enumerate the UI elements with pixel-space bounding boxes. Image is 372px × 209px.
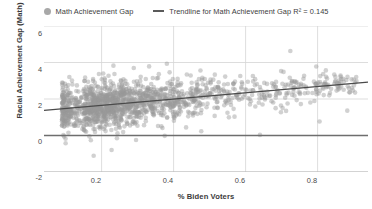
legend-item-math-achievement-gap[interactable]: Math Achievement Gap xyxy=(44,7,134,16)
legend-trendline-text: Trendline for Math Achievement Gap R² = … xyxy=(169,7,328,16)
y-tick-label: -2 xyxy=(24,173,42,182)
legend-label-scatter: Math Achievement Gap xyxy=(56,7,134,16)
line-marker-icon xyxy=(153,10,164,12)
plot-svg xyxy=(44,26,368,172)
x-tick-label: 0.2 xyxy=(81,176,111,185)
y-tick-label: 4 xyxy=(24,65,42,74)
x-axis-title: % Biden Voters xyxy=(44,192,368,201)
x-tick-label: 0.8 xyxy=(297,176,327,185)
circle-marker-icon xyxy=(44,8,51,15)
y-tick-label: 2 xyxy=(24,101,42,110)
x-tick-label: 0.6 xyxy=(225,176,255,185)
y-tick-label: 6 xyxy=(24,29,42,38)
scatter-chart: Math Achievement Gap Trendline for Math … xyxy=(0,0,372,209)
legend-label-trendline: Trendline for Math Achievement Gap R² = … xyxy=(169,7,328,16)
chart-legend: Math Achievement Gap Trendline for Math … xyxy=(0,0,372,22)
scatter-points-layer xyxy=(60,49,359,158)
y-axis-tick-labels: 6 4 2 0 -2 xyxy=(0,0,42,209)
x-tick-label: 0.4 xyxy=(153,176,183,185)
legend-item-trendline[interactable]: Trendline for Math Achievement Gap R² = … xyxy=(153,7,328,16)
y-tick-label: 0 xyxy=(24,137,42,146)
plot-area xyxy=(44,26,368,172)
